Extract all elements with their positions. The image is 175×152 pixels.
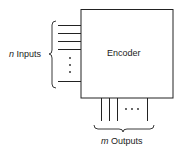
output-lines bbox=[102, 98, 148, 121]
encoder-label: Encoder bbox=[107, 48, 141, 58]
encoder-diagram: Encoder n Inputs bbox=[0, 0, 175, 152]
input-lines bbox=[58, 26, 81, 82]
input-ellipsis bbox=[69, 57, 71, 73]
outputs-brace bbox=[94, 125, 154, 132]
outputs-label: m Outputs bbox=[101, 136, 143, 146]
output-ellipsis bbox=[125, 108, 139, 110]
inputs-brace bbox=[49, 21, 56, 88]
inputs-label: n Inputs bbox=[9, 49, 42, 59]
